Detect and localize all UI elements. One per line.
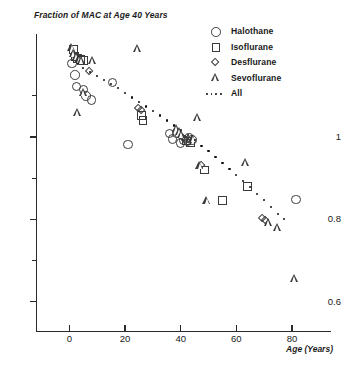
legend-label: Desflurane	[231, 57, 276, 67]
square-icon	[205, 40, 227, 56]
y-tick-minor	[32, 95, 37, 96]
fit-line-dot	[138, 101, 140, 103]
fit-line-dot	[77, 63, 79, 65]
data-point-triangle	[79, 88, 89, 98]
data-point-triangle	[264, 218, 274, 228]
fit-line-dot	[207, 150, 209, 152]
data-point-triangle	[195, 161, 205, 171]
legend-label: Isoflurane	[231, 42, 273, 52]
x-tick-label: 60	[224, 333, 248, 344]
fit-line-dot	[166, 119, 168, 121]
data-point-triangle	[193, 113, 203, 123]
dotted-line-icon	[205, 86, 227, 102]
fit-line-dot	[131, 96, 133, 98]
data-point-circle	[291, 195, 301, 205]
data-point-triangle	[241, 158, 251, 168]
fit-line-dot	[96, 75, 98, 77]
fit-line-dot	[173, 124, 175, 126]
x-tick-major	[291, 325, 292, 331]
fit-line-dot	[221, 162, 223, 164]
data-point-square	[218, 196, 227, 205]
fit-line-dot	[124, 92, 126, 94]
y-tick-label: 0.8	[315, 214, 341, 224]
legend-item-halothane[interactable]: Halothane	[205, 24, 337, 40]
x-axis-line	[36, 331, 331, 332]
data-point-triangle	[290, 274, 300, 284]
data-point-triangle	[273, 223, 283, 233]
data-point-triangle	[133, 44, 143, 54]
y-tick-minor	[32, 260, 37, 261]
fit-line-dot	[200, 145, 202, 147]
x-axis-title: Age (Years)	[286, 344, 333, 354]
data-point-square	[139, 116, 148, 125]
data-point-circle	[70, 70, 80, 80]
x-tick-major	[180, 325, 181, 331]
y-tick-major	[30, 136, 36, 137]
fit-line-dot	[103, 79, 105, 81]
fit-line-dot	[145, 105, 147, 107]
fit-line-dot	[270, 206, 272, 208]
fit-line-dot	[152, 110, 154, 112]
legend-label: All	[231, 88, 242, 98]
data-point-triangle	[88, 56, 98, 66]
legend-item-isoflurane[interactable]: Isoflurane	[205, 40, 337, 56]
triangle-icon	[205, 71, 227, 87]
y-axis-line	[36, 34, 37, 331]
x-tick-label: 80	[280, 333, 304, 344]
y-tick-label: 0.6	[315, 297, 341, 307]
fit-line-dot	[228, 168, 230, 170]
x-tick-label: 40	[169, 333, 193, 344]
x-tick-label: 0	[57, 333, 81, 344]
fit-line-dot	[283, 218, 285, 220]
legend-item-sevoflurane[interactable]: Sevoflurane	[205, 71, 337, 87]
chart-legend: HalothaneIsofluraneDesfluraneSevoflurane…	[205, 24, 337, 102]
y-tick-major	[30, 219, 36, 220]
data-point-triangle	[202, 196, 212, 206]
data-point-circle	[87, 95, 97, 105]
diamond-icon	[205, 55, 227, 71]
circle-icon	[205, 24, 227, 40]
chart-title: Fraction of MAC at Age 40 Years	[34, 10, 168, 20]
data-point-triangle	[177, 130, 187, 140]
data-point-triangle	[73, 108, 83, 118]
fit-line-dot	[256, 193, 258, 195]
x-tick-major	[236, 325, 237, 331]
fit-line-dot	[214, 156, 216, 158]
y-tick-minor	[32, 178, 37, 179]
fit-line-dot	[117, 87, 119, 89]
y-tick-major	[30, 301, 36, 302]
x-tick-label: 20	[113, 333, 137, 344]
fit-line-dot	[235, 174, 237, 176]
y-tick-label: 1	[315, 132, 341, 142]
legend-item-desflurane[interactable]: Desflurane	[205, 55, 337, 71]
legend-item-all[interactable]: All	[205, 86, 337, 102]
fit-line-dot	[277, 213, 279, 215]
x-tick-major	[124, 325, 125, 331]
legend-label: Halothane	[231, 26, 273, 36]
x-tick-major	[69, 325, 70, 331]
chart-figure: Fraction of MAC at Age 40 Years 10.80.6 …	[0, 0, 341, 368]
fit-line-dot	[159, 114, 161, 116]
legend-label: Sevoflurane	[231, 73, 281, 83]
fit-line-dot	[82, 67, 84, 69]
data-point-circle	[123, 140, 133, 150]
fit-line-dot	[263, 199, 265, 201]
